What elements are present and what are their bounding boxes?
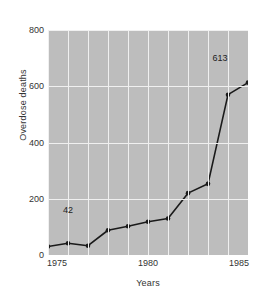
horizontal-gridline (48, 199, 248, 200)
horizontal-gridline (48, 143, 248, 144)
y-tick-label: 800 (6, 25, 48, 35)
x-tick-label: 1975 (47, 258, 67, 268)
y-tick-label: 0 (6, 250, 48, 260)
y-axis-ticks: 0200400600800 (0, 0, 48, 299)
y-tick-label: 200 (6, 194, 48, 204)
x-axis-title: Years (48, 278, 248, 288)
data-label-annotation: 613 (212, 53, 227, 63)
plot-area: 42613 (48, 30, 248, 255)
chart-figure: Overdose deaths 0200400600800 42613 Year… (0, 0, 274, 299)
y-tick-label: 600 (6, 81, 48, 91)
x-tick-label: 1980 (138, 258, 158, 268)
horizontal-gridline (48, 86, 248, 87)
horizontal-gridline (48, 30, 248, 31)
data-label-annotation: 42 (63, 205, 73, 215)
y-tick-label: 400 (6, 138, 48, 148)
x-tick-label: 1985 (229, 258, 249, 268)
